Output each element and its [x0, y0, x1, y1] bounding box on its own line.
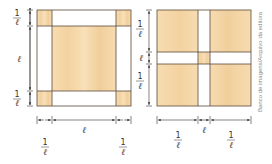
image-credit: Banco de imagens/Arquivo da editora: [257, 11, 263, 112]
label-bottom-left: 1 ℓ: [41, 138, 49, 157]
label-left-mid: ℓ: [17, 54, 21, 64]
corner-bottom-right: [116, 91, 131, 106]
svg-text:ℓ: ℓ: [176, 140, 180, 150]
right-figure: 1 ℓ ℓ 1 ℓ ℓ 1 ℓ 1: [136, 10, 251, 150]
right-left-dimension: [146, 10, 152, 106]
svg-text:1: 1: [228, 131, 233, 140]
corner-bottom-left: [37, 91, 52, 106]
svg-text:1: 1: [137, 20, 142, 29]
right-label-left-top: 1 ℓ: [136, 20, 144, 39]
svg-text:ℓ: ℓ: [15, 98, 19, 108]
svg-text:ℓ: ℓ: [229, 140, 233, 150]
center-band: [52, 26, 116, 91]
corner-top-right: [116, 10, 131, 26]
right-label-bottom-left: 1 ℓ: [174, 131, 182, 150]
svg-text:ℓ: ℓ: [121, 147, 125, 157]
right-label-bottom-mid: ℓ: [202, 125, 206, 135]
svg-text:ℓ: ℓ: [138, 81, 142, 91]
svg-text:1: 1: [175, 131, 180, 140]
svg-text:ℓ: ℓ: [15, 17, 19, 27]
label-left-bottom: 1 ℓ: [13, 90, 21, 108]
right-label-left-bottom: 1 ℓ: [136, 72, 144, 91]
label-bottom-mid: ℓ: [82, 125, 86, 135]
svg-text:1: 1: [120, 138, 125, 147]
label-left-top: 1 ℓ: [13, 9, 21, 27]
svg-text:1: 1: [42, 138, 47, 147]
corner-top-left: [37, 10, 52, 26]
diagram: 1 ℓ ℓ 1 ℓ ℓ 1 ℓ 1: [0, 0, 272, 164]
svg-text:ℓ: ℓ: [138, 29, 142, 39]
bottom-dimension: [37, 116, 131, 124]
left-figure: 1 ℓ ℓ 1 ℓ ℓ 1 ℓ 1: [13, 9, 131, 157]
label-bottom-right: 1 ℓ: [119, 138, 127, 157]
svg-text:ℓ: ℓ: [43, 147, 47, 157]
left-dimension: [27, 10, 33, 106]
right-label-bottom-right: 1 ℓ: [227, 131, 235, 150]
right-label-left-mid: ℓ: [139, 53, 143, 63]
center-square: [198, 52, 210, 64]
right-bottom-dimension: [157, 116, 251, 124]
svg-text:1: 1: [137, 72, 142, 81]
